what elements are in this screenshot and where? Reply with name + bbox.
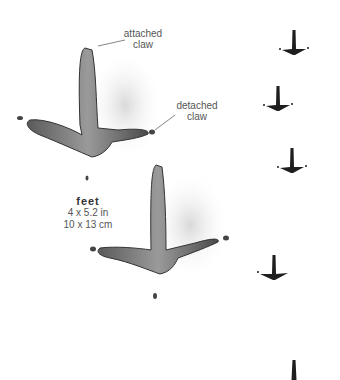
detached-claw-mark [17, 116, 23, 120]
label-line: attached [118, 28, 168, 39]
diagram-canvas: attached claw detached claw feet 4 x 5.2… [0, 0, 340, 380]
size-imperial: 4 x 5.2 in [48, 207, 128, 219]
track-print-3 [277, 148, 307, 173]
label-line: claw [118, 39, 168, 50]
track-print-1 [279, 30, 309, 55]
size-metric: 10 x 13 cm [48, 219, 128, 231]
size-label: feet 4 x 5.2 in 10 x 13 cm [48, 195, 128, 231]
large-footprint-1 [17, 48, 163, 160]
detached-claw-label: detached claw [172, 100, 222, 122]
track-print-5 [292, 360, 297, 380]
footprint-illustration [0, 0, 340, 380]
label-line: detached [172, 100, 222, 111]
track-print-2 [263, 86, 293, 111]
large-footprint-2 [86, 165, 231, 299]
track-print-4 [257, 255, 288, 280]
size-title: feet [48, 195, 128, 207]
label-line: claw [172, 111, 222, 122]
trackway [257, 30, 309, 380]
attached-claw-label: attached claw [118, 28, 168, 50]
